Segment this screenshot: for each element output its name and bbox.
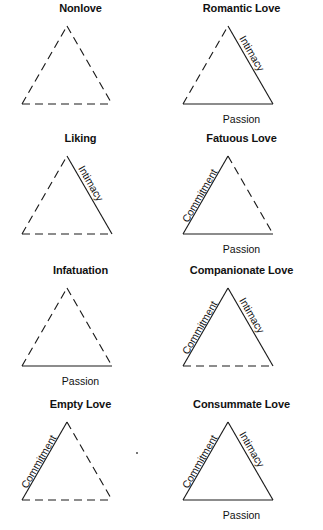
love-type-cell-fatuous-love: Fatuous LovePassionCommitment: [161, 130, 322, 262]
triangle-side-intimacy: [228, 156, 273, 234]
side-label-passion: Passion: [161, 244, 322, 255]
love-triangle-liking: Intimacy: [0, 130, 161, 262]
triangle-side-intimacy: [67, 288, 112, 366]
love-triangle-fatuous-love: PassionCommitment: [161, 130, 322, 262]
love-triangle-empty-love: Commitment: [0, 396, 161, 528]
love-type-cell-empty-love: Empty LoveCommitment: [0, 396, 161, 528]
triangle-outline: [0, 130, 161, 262]
love-triangle-consummate-love: PassionIntimacyCommitment: [161, 396, 322, 528]
love-type-cell-companionate-love: Companionate LoveIntimacyCommitment: [161, 262, 322, 394]
love-triangle-infatuation: Passion: [0, 262, 161, 394]
triangle-side-commitment: [22, 156, 67, 234]
love-triangle-nonlove: [0, 0, 161, 132]
triangle-outline: [161, 262, 322, 394]
side-label-passion: Passion: [161, 510, 322, 521]
triangle-side-commitment: [183, 26, 228, 104]
triangle-outline: [0, 0, 161, 132]
triangular-theory-of-love-figure: NonloveRomantic LovePassionIntimacyLikin…: [0, 0, 323, 530]
love-type-cell-nonlove: Nonlove: [0, 0, 161, 132]
love-triangle-companionate-love: IntimacyCommitment: [161, 262, 322, 394]
triangle-side-commitment: [22, 26, 67, 104]
side-label-passion: Passion: [0, 376, 161, 387]
side-label-passion: Passion: [161, 114, 322, 125]
love-type-cell-consummate-love: Consummate LovePassionIntimacyCommitment: [161, 396, 322, 528]
love-type-cell-liking: LikingIntimacy: [0, 130, 161, 262]
love-type-cell-romantic-love: Romantic LovePassionIntimacy: [161, 0, 322, 132]
triangle-side-commitment: [22, 288, 67, 366]
triangle-side-intimacy: [67, 26, 112, 104]
triangle-outline: [0, 396, 161, 528]
love-triangle-romantic-love: PassionIntimacy: [161, 0, 322, 132]
triangle-side-intimacy: [67, 422, 112, 500]
love-type-cell-infatuation: InfatuationPassion: [0, 262, 161, 394]
